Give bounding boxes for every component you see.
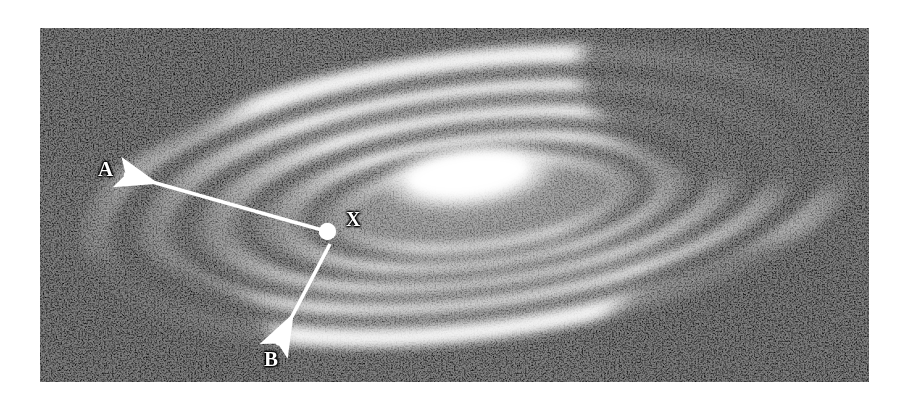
- annotation-layer: [40, 28, 869, 382]
- label-b: B: [264, 349, 278, 370]
- label-a: A: [98, 159, 113, 180]
- sun-position-marker: [319, 223, 336, 240]
- galaxy-figure: A X B: [40, 28, 869, 382]
- label-x: X: [346, 209, 360, 229]
- arrow-to-a: [124, 174, 322, 230]
- arrow-to-b: [277, 244, 330, 345]
